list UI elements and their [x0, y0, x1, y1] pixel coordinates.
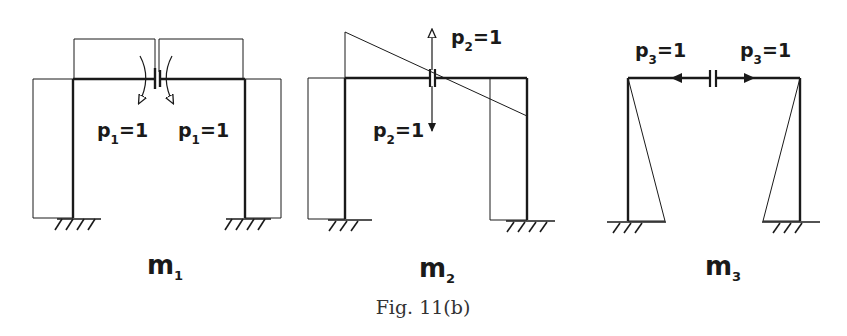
hinge-icon — [710, 70, 716, 87]
panel-label-m3: m3 — [705, 251, 741, 284]
load-label-p1-right: p1=1 — [178, 119, 229, 147]
panel-m3: p3=1 p3=1 m3 — [607, 39, 820, 284]
panel-label-m1: m1 — [147, 250, 183, 283]
frame-m2 — [345, 78, 527, 220]
fixed-support-icon — [55, 219, 101, 230]
frame-m1 — [73, 79, 245, 218]
figure-caption: Fig. 11(b) — [376, 296, 471, 318]
panel-label-m2: m2 — [419, 253, 455, 286]
hinge-icon — [155, 68, 160, 89]
frame-m3 — [628, 78, 800, 221]
fixed-support-icon — [328, 220, 372, 231]
load-label-p1-left: p1=1 — [97, 119, 148, 147]
load-label-p3-left: p3=1 — [635, 39, 686, 67]
figure-canvas: p1=1 p1=1 m1 — [0, 0, 847, 336]
hinge-icon — [430, 69, 435, 87]
fixed-support-icon — [506, 221, 555, 232]
fixed-support-icon — [607, 222, 666, 233]
load-label-p2-down: p2=1 — [373, 119, 424, 147]
panel-m1: p1=1 p1=1 m1 — [33, 39, 281, 283]
fixed-support-icon — [762, 222, 820, 233]
load-label-p3-right: p3=1 — [740, 39, 791, 67]
panel-m2: p2=1 p2=1 m2 — [308, 26, 555, 286]
fixed-support-icon — [225, 219, 271, 230]
load-label-p2-up: p2=1 — [451, 26, 502, 54]
moment-diagram-m3 — [628, 78, 800, 221]
